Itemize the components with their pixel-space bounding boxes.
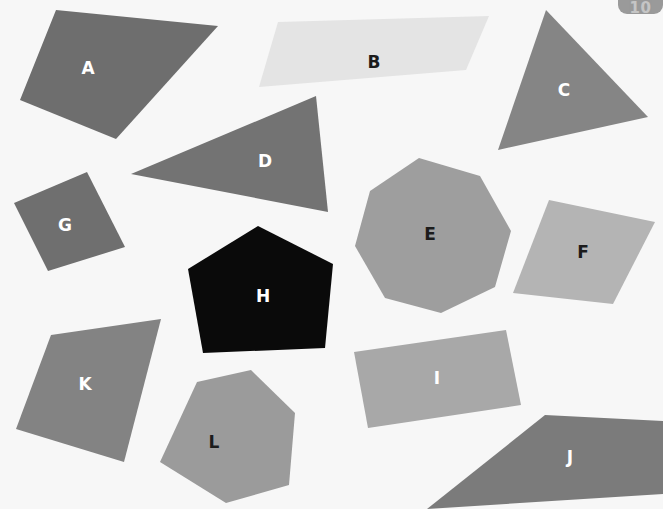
shapes-svg-canvas: ABCDEFGHIJKL bbox=[0, 0, 663, 509]
shapes-canvas-stage: ABCDEFGHIJKL 10 bbox=[0, 0, 663, 509]
corner-count-badge[interactable]: 10 bbox=[618, 0, 663, 14]
corner-count-badge-label: 10 bbox=[630, 1, 652, 14]
